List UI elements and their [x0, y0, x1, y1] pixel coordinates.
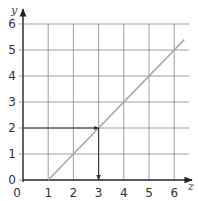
grid-lines	[23, 24, 189, 180]
x-tick-label: 2	[70, 186, 78, 200]
line-chart: 01234560123456 z y	[0, 0, 198, 201]
data-line	[48, 40, 184, 180]
y-tick-label: 6	[8, 17, 16, 31]
x-tick-label: 6	[170, 186, 178, 200]
y-tick-label: 4	[8, 69, 16, 83]
tick-labels: 01234560123456	[8, 17, 178, 200]
x-tick-label: 1	[44, 186, 52, 200]
x-tick-label: 3	[95, 186, 103, 200]
y-tick-label: 2	[8, 121, 16, 135]
y-axis-label: y	[10, 4, 18, 17]
x-tick-label: 4	[120, 186, 128, 200]
axes	[19, 9, 192, 182]
y-tick-label: 1	[8, 147, 16, 161]
x-tick-label: 0	[13, 186, 21, 200]
data-series	[48, 40, 184, 180]
x-axis-label: z	[187, 180, 194, 193]
y-tick-label: 5	[8, 43, 16, 57]
y-tick-label: 0	[8, 173, 16, 187]
x-tick-label: 5	[145, 186, 153, 200]
y-tick-label: 3	[8, 95, 16, 109]
